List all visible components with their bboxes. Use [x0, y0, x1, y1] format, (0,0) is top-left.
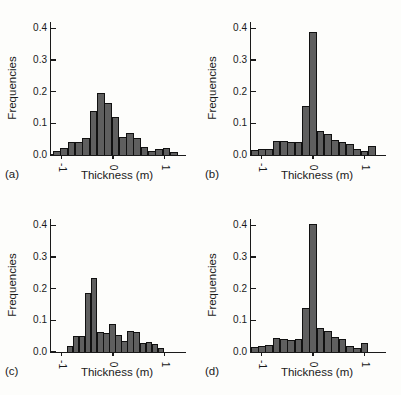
x-tick-label: -1	[256, 160, 267, 176]
panel-c: Frequencies 0.00.10.20.30.4-101 Thicknes…	[0, 197, 200, 395]
panel-letter: (d)	[205, 365, 219, 377]
x-tick	[112, 352, 114, 356]
x-tick-label: -1	[56, 160, 67, 176]
y-tick-label: 0.0	[215, 149, 247, 161]
x-tick-label: 1	[359, 357, 370, 373]
x-axis-title: Thickness (m)	[281, 169, 353, 181]
y-tick-label: 0.4	[215, 22, 247, 34]
x-tick-label: 1	[159, 357, 170, 373]
x-tick	[364, 352, 366, 356]
histogram-bar	[368, 146, 376, 156]
histogram-figure: Frequencies 0.00.10.20.30.4-101 Thicknes…	[0, 0, 401, 395]
y-tick-label: 0.3	[215, 251, 247, 263]
y-tick	[51, 225, 56, 227]
y-tick	[51, 59, 56, 61]
x-tick-label: -1	[256, 357, 267, 373]
y-tick-label: 0.3	[15, 251, 47, 263]
y-tick	[251, 59, 256, 61]
x-tick	[261, 352, 263, 356]
panel-b: Frequencies 0.00.10.20.30.4-101 Thicknes…	[200, 0, 401, 197]
x-tick	[164, 352, 166, 356]
x-axis-title: Thickness (m)	[281, 366, 353, 378]
y-tick-label: 0.1	[15, 117, 47, 129]
y-tick-label: 0.4	[215, 219, 247, 231]
panel-letter: (a)	[5, 168, 19, 180]
panel-d: Frequencies 0.00.10.20.30.4-101 Thicknes…	[200, 197, 401, 395]
y-tick-label: 0.2	[215, 86, 247, 98]
x-tick	[312, 155, 314, 159]
y-tick	[51, 288, 56, 290]
y-tick	[51, 123, 56, 125]
y-tick-label: 0.1	[15, 314, 47, 326]
y-tick-label: 0.1	[215, 117, 247, 129]
y-tick-label: 0.0	[15, 346, 47, 358]
y-tick	[251, 28, 256, 30]
x-tick-label: 1	[159, 160, 170, 176]
x-tick	[312, 352, 314, 356]
y-tick-label: 0.4	[15, 219, 47, 231]
y-tick	[51, 256, 56, 258]
x-tick	[164, 155, 166, 159]
y-tick	[251, 256, 256, 258]
y-tick-label: 0.1	[215, 314, 247, 326]
y-tick	[251, 123, 256, 125]
y-tick-label: 0.0	[15, 149, 47, 161]
x-tick	[261, 155, 263, 159]
plot-area-a: 0.00.10.20.30.4-101	[50, 22, 186, 156]
x-tick	[61, 352, 63, 356]
x-axis-title: Thickness (m)	[81, 366, 153, 378]
panel-letter: (c)	[5, 365, 18, 377]
y-tick-label: 0.2	[15, 283, 47, 295]
y-tick-label: 0.4	[15, 22, 47, 34]
y-tick-label: 0.3	[15, 54, 47, 66]
plot-area-c: 0.00.10.20.30.4-101	[50, 219, 186, 353]
x-tick	[112, 155, 114, 159]
x-tick	[61, 155, 63, 159]
y-tick	[51, 91, 56, 93]
x-tick-label: 1	[359, 160, 370, 176]
plot-area-d: 0.00.10.20.30.4-101	[250, 219, 386, 353]
y-tick	[51, 351, 56, 353]
x-tick	[364, 155, 366, 159]
y-tick-label: 0.2	[215, 283, 247, 295]
x-tick-label: -1	[56, 357, 67, 373]
x-axis-title: Thickness (m)	[81, 169, 153, 181]
y-tick	[251, 225, 256, 227]
y-tick-label: 0.2	[15, 86, 47, 98]
plot-area-b: 0.00.10.20.30.4-101	[250, 22, 386, 156]
y-tick-label: 0.0	[215, 346, 247, 358]
y-tick	[51, 320, 56, 322]
y-tick-label: 0.3	[215, 54, 247, 66]
histogram-bar	[170, 152, 178, 155]
y-tick	[251, 91, 256, 93]
panel-letter: (b)	[205, 168, 219, 180]
histogram-bar	[361, 343, 369, 353]
panel-a: Frequencies 0.00.10.20.30.4-101 Thicknes…	[0, 0, 200, 197]
y-tick	[251, 288, 256, 290]
y-tick	[251, 320, 256, 322]
y-tick	[51, 28, 56, 30]
histogram-bar	[158, 348, 164, 352]
